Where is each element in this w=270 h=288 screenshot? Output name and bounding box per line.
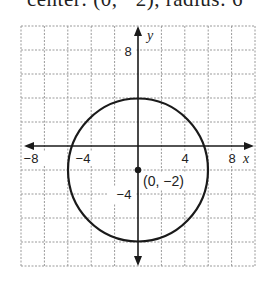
y-axis-up-arrow-icon [134, 26, 142, 36]
x-axis-left-arrow-icon [24, 142, 34, 150]
x-axis-label: x [242, 151, 250, 166]
tick-label-x-neg8: −8 [24, 151, 39, 166]
tick-label-y-neg4: −4 [117, 187, 132, 202]
tick-label-x-neg4: −4 [76, 151, 91, 166]
center-point [135, 167, 141, 173]
tick-label-y-8: 8 [124, 44, 131, 59]
y-axis-down-arrow-icon [134, 256, 142, 266]
x-axis [24, 142, 254, 150]
tick-label-x-8: 8 [228, 151, 235, 166]
y-axis-label: y [145, 28, 154, 43]
x-axis-right-arrow-icon [244, 142, 254, 150]
coordinate-plane: −8 −4 4 8 x 8 −4 y (0, −2) [0, 0, 270, 288]
center-point-label: (0, −2) [143, 173, 184, 189]
tick-label-x-4: 4 [181, 151, 188, 166]
